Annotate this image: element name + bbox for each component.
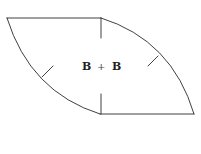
label-plus: + xyxy=(97,61,105,72)
label-left-b: B xyxy=(82,60,91,73)
label-right-b: B xyxy=(112,60,121,73)
right-arc-tick xyxy=(148,56,158,66)
diagram-canvas: B + B xyxy=(0,0,201,154)
left-arc-tick xyxy=(42,66,53,77)
